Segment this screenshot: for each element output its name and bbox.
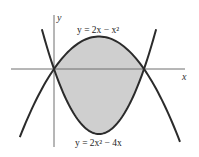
graph-canvas: y x y = 2x − x² y = 2x² − 4x <box>0 0 199 157</box>
lower-curve-label: y = 2x² − 4x <box>75 138 122 148</box>
y-axis-label: y <box>56 12 62 23</box>
x-axis-label: x <box>181 71 187 82</box>
upper-curve-label: y = 2x − x² <box>77 25 119 35</box>
